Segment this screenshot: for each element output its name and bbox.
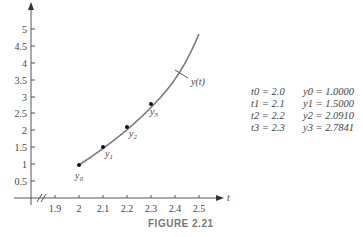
svg-text:5: 5 (22, 24, 27, 35)
y-axis-arrow-icon (28, 2, 34, 10)
svg-text:4.5: 4.5 (15, 41, 28, 52)
y-ticks (31, 29, 35, 181)
svg-text:3: 3 (22, 92, 27, 103)
y-tick-labels: 0.5 1 1.5 2 2.5 3 3.5 4 4.5 5 (15, 24, 28, 187)
curve-label: y(t) (190, 76, 206, 88)
svg-text:1.9: 1.9 (49, 203, 62, 214)
svg-text:2.4: 2.4 (169, 203, 182, 214)
values-table: t0 = 2.0y0 = 1.0000 t1 = 2.1y1 = 1.5000 … (251, 86, 354, 134)
svg-text:0.5: 0.5 (15, 176, 28, 187)
table-row: t3 = 2.3y3 = 2.7841 (251, 122, 354, 134)
svg-text:2: 2 (77, 203, 82, 214)
table-row: t2 = 2.2y2 = 2.0910 (251, 110, 354, 122)
svg-text:4: 4 (22, 58, 27, 69)
svg-text:3.5: 3.5 (15, 75, 28, 86)
figure-caption: FIGURE 2.21 (148, 218, 214, 229)
x-tick-labels: 1.9 2 2.1 2.2 2.3 2.4 2.5 (49, 203, 206, 214)
svg-text:1: 1 (22, 159, 27, 170)
table-row: t0 = 2.0y0 = 1.0000 (251, 86, 354, 98)
svg-text:y3: y3 (149, 106, 158, 119)
svg-text:2: 2 (22, 125, 27, 136)
figure: t 1.9 2 2.1 2.2 2.3 2.4 2.5 (0, 0, 363, 237)
svg-text:y2: y2 (128, 128, 137, 141)
x-axis-arrow-icon (216, 195, 224, 201)
svg-text:2.1: 2.1 (97, 203, 110, 214)
svg-text:2.3: 2.3 (145, 203, 158, 214)
point-labels: y0 y1 y2 y3 (74, 106, 158, 183)
svg-text:1.5: 1.5 (15, 142, 28, 153)
approximation-points (77, 102, 153, 167)
svg-text:2.5: 2.5 (15, 108, 28, 119)
svg-text:2.2: 2.2 (121, 203, 134, 214)
point-y0 (77, 163, 81, 167)
curve-y-t (79, 34, 199, 165)
svg-text:y1: y1 (104, 148, 113, 161)
x-axis-label: t (227, 192, 230, 203)
svg-text:y0: y0 (74, 170, 83, 183)
svg-text:2.5: 2.5 (193, 203, 206, 214)
table-row: t1 = 2.1y1 = 1.5000 (251, 98, 354, 110)
